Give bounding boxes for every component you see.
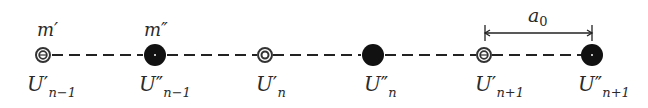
mass-label-light: m′ <box>37 19 58 40</box>
displacement-label-1: U′n−1 <box>27 72 76 100</box>
displacement-label-4: U″n <box>364 72 397 100</box>
atom-light-2 <box>258 48 272 62</box>
mass-label-heavy: m″ <box>144 19 168 40</box>
atom-light-3 <box>477 48 491 62</box>
displacement-label-5: U′n+1 <box>475 72 524 100</box>
atom-heavy-3 <box>581 44 603 66</box>
displacement-label-3: U′n <box>256 72 286 100</box>
displacement-label-6: U″n+1 <box>578 72 630 100</box>
displacement-label-2: U″n−1 <box>139 72 191 100</box>
atom-light-1 <box>36 48 50 62</box>
atom-heavy-1 <box>144 44 166 66</box>
lattice-constant-label: a0 <box>528 4 548 29</box>
atom-heavy-2 <box>362 44 384 66</box>
diatomic-chain-diagram: m′ m″ a0 U′n−1 U″n−1 U′n U″n U′n+1 U″n+1 <box>0 0 648 108</box>
